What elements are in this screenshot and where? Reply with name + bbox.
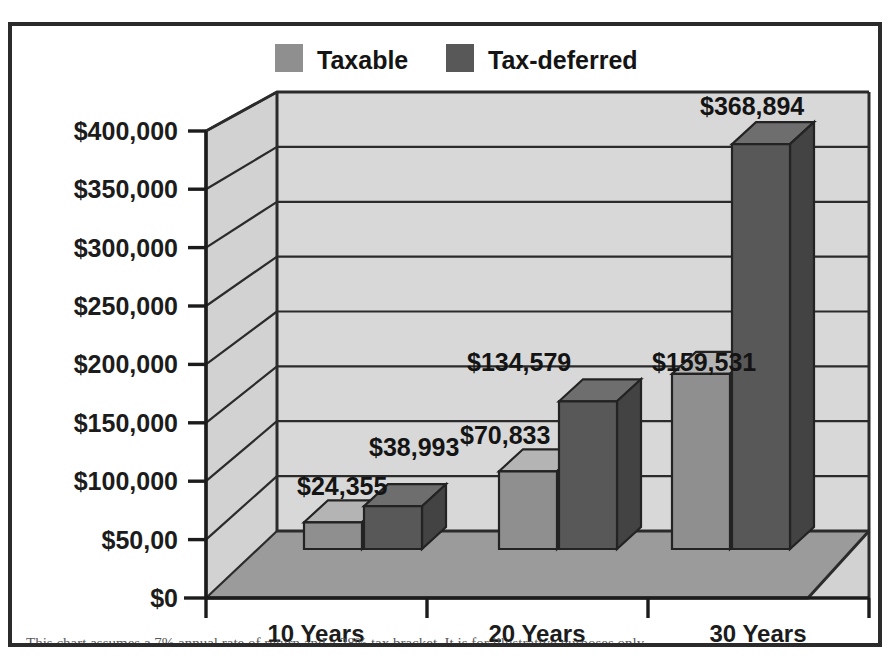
tax-deferred-growth-chart: $400,000 $350,000 $300,000 $250,000 $200… <box>12 26 878 643</box>
y-tick-label: $150,000 <box>74 409 178 437</box>
value-label-taxable-20-years: $70,833 <box>460 421 550 449</box>
y-tick-label: $250,000 <box>74 292 178 320</box>
x-axis <box>206 598 869 618</box>
bar-tax-deferred-30-years[interactable] <box>732 122 814 549</box>
y-axis <box>184 131 206 598</box>
legend-label-taxable[interactable]: Taxable <box>317 46 408 74</box>
legend-swatch-tax-deferred <box>446 44 474 72</box>
value-label-tax-deferred-10-years: $38,993 <box>369 433 459 461</box>
chart-caption: This chart assumes a 7% annual rate of r… <box>26 635 872 643</box>
value-label-taxable-10-years: $24,355 <box>297 472 387 500</box>
legend-label-tax-deferred[interactable]: Tax-deferred <box>488 46 638 74</box>
value-label-taxable-30-years: $159,531 <box>652 348 756 376</box>
chart-frame: $400,000 $350,000 $300,000 $250,000 $200… <box>8 22 882 647</box>
y-tick-label: $50,00 <box>102 526 178 554</box>
bar-tax-deferred-20-years[interactable] <box>559 379 641 549</box>
y-axis-tick-labels: $400,000 $350,000 $300,000 $250,000 $200… <box>74 117 178 612</box>
value-label-tax-deferred-20-years: $134,579 <box>467 348 571 376</box>
y-tick-label: $100,000 <box>74 467 178 495</box>
y-tick-label: $400,000 <box>74 117 178 145</box>
legend-swatch-taxable <box>275 44 303 72</box>
chart-page: $400,000 $350,000 $300,000 $250,000 $200… <box>0 0 890 656</box>
value-label-tax-deferred-30-years: $368,894 <box>700 92 804 120</box>
y-tick-label: $300,000 <box>74 234 178 262</box>
y-tick-label: $350,000 <box>74 175 178 203</box>
y-tick-label: $200,000 <box>74 350 178 378</box>
y-tick-label: $0 <box>150 584 178 612</box>
chart-legend: Taxable Tax-deferred <box>275 44 638 74</box>
